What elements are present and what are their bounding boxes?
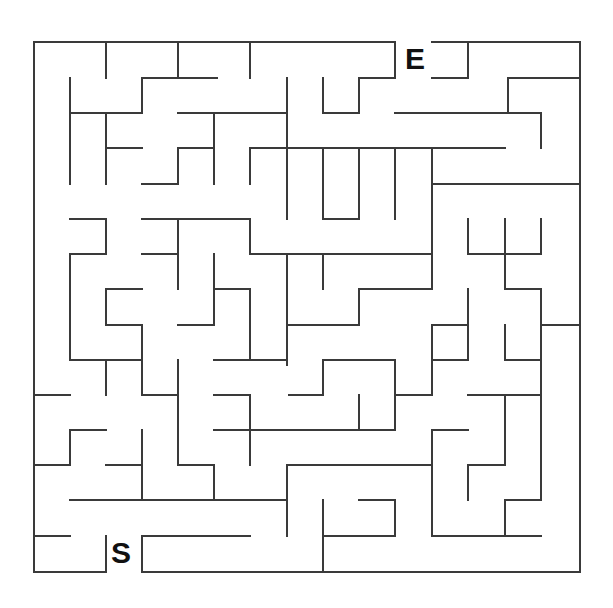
maze-board <box>0 0 613 608</box>
end-marker: E <box>405 44 425 74</box>
maze-walls <box>34 42 580 572</box>
start-marker: S <box>111 538 131 568</box>
